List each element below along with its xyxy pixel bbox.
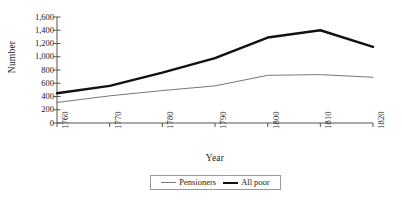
x-axis-title: Year [57, 153, 373, 163]
x-axis-tick-label: 1820 [377, 111, 386, 129]
y-axis-tick-label: 1,000 [20, 52, 54, 61]
chart-legend: PensionersAll poor [150, 175, 281, 190]
legend-item-label: Pensioners [179, 178, 216, 187]
legend-item-all-poor[interactable]: All poor [223, 178, 270, 187]
x-axis-tick-label: 1760 [61, 111, 70, 129]
y-axis-tick-label: 0 [20, 119, 54, 128]
y-axis-tick-label: 400 [20, 92, 54, 101]
y-axis-tick-label: 1,400 [20, 26, 54, 35]
y-axis-tick-label: 1,200 [20, 39, 54, 48]
y-axis-tick-label: 1,600 [20, 13, 54, 22]
x-axis-tick-label: 1810 [324, 111, 333, 129]
legend-swatch-icon [161, 182, 176, 183]
x-axis-tick-label: 1800 [272, 111, 281, 129]
y-axis-tick-label: 800 [20, 66, 54, 75]
legend-item-label: All poor [241, 178, 270, 187]
legend-swatch-icon [223, 182, 238, 184]
y-axis-tick-label: 600 [20, 79, 54, 88]
legend-item-pensioners[interactable]: Pensioners [161, 178, 216, 187]
data-series-group [57, 30, 373, 102]
plot-area [0, 0, 402, 201]
x-axis-tick-label: 1790 [219, 111, 228, 129]
y-axis-tick-labels: 1,6001,4001,2001,0008006004002000 [16, 0, 54, 201]
series-line-pensioners [57, 75, 373, 103]
series-line-all-poor [57, 30, 373, 93]
y-axis-tick-label: 200 [20, 105, 54, 114]
x-axis-tick-label: 1770 [114, 111, 123, 129]
line-chart: Number 1,6001,4001,2001,0008006004002000… [0, 0, 402, 201]
x-axis-tick-label: 1780 [166, 111, 175, 129]
